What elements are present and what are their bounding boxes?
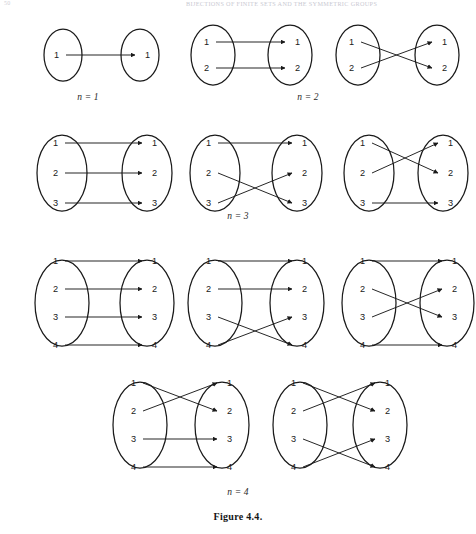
domain-element-label: 2 (349, 63, 354, 73)
codomain-element-label: 3 (448, 198, 453, 208)
domain-element-label: 4 (360, 340, 365, 350)
domain-element-label: 1 (204, 37, 209, 47)
codomain-ellipse (272, 135, 322, 211)
codomain-element-label: 3 (302, 198, 307, 208)
bijection-diagrams-svg: 1112121212123123123123123123123412341234… (0, 0, 476, 534)
codomain-element-label: 1 (227, 378, 232, 388)
codomain-element-label: 2 (152, 284, 157, 294)
codomain-ellipse (418, 135, 468, 211)
codomain-element-label: 2 (452, 284, 457, 294)
codomain-element-label: 2 (302, 284, 307, 294)
label-n-3: n = 3 (208, 211, 268, 221)
bijection-diagram: 123123 (190, 135, 322, 211)
domain-element-label: 2 (53, 168, 58, 178)
domain-element-label: 2 (360, 168, 365, 178)
bijection-diagram: 12341234 (342, 256, 474, 350)
label-n-1: n = 1 (58, 92, 118, 102)
figure-caption: Figure 4.4. (0, 511, 476, 522)
domain-element-label: 2 (291, 406, 296, 416)
domain-ellipse (190, 135, 240, 211)
codomain-element-label: 1 (385, 378, 390, 388)
codomain-element-label: 2 (442, 63, 447, 73)
domain-element-label: 1 (206, 256, 211, 266)
codomain-ellipse (120, 260, 174, 346)
codomain-element-label: 4 (385, 462, 390, 472)
codomain-element-label: 4 (302, 340, 307, 350)
codomain-element-label: 1 (295, 37, 300, 47)
figure-4-4: 1112121212123123123123123123123412341234… (0, 0, 476, 534)
domain-ellipse (188, 260, 242, 346)
domain-element-label: 2 (131, 406, 136, 416)
codomain-element-label: 1 (452, 256, 457, 266)
domain-element-label: 3 (360, 198, 365, 208)
domain-element-label: 3 (53, 198, 58, 208)
domain-ellipse (336, 25, 380, 85)
domain-element-label: 2 (206, 168, 211, 178)
codomain-element-label: 3 (385, 434, 390, 444)
bijection-diagram: 1212 (336, 25, 459, 85)
bijection-diagram: 1212 (191, 25, 312, 85)
domain-ellipse (35, 260, 89, 346)
domain-element-label: 2 (206, 284, 211, 294)
domain-element-label: 2 (360, 284, 365, 294)
bijection-diagram: 123123 (344, 135, 468, 211)
domain-element-label: 4 (131, 462, 136, 472)
domain-ellipse (342, 260, 396, 346)
codomain-element-label: 1 (152, 256, 157, 266)
codomain-element-label: 3 (302, 312, 307, 322)
bijection-diagram: 12341234 (273, 378, 407, 472)
domain-element-label: 1 (54, 50, 59, 60)
bijection-diagram: 11 (44, 29, 159, 81)
codomain-element-label: 4 (227, 462, 232, 472)
codomain-element-label: 1 (448, 138, 453, 148)
domain-element-label: 2 (53, 284, 58, 294)
codomain-element-label: 3 (152, 312, 157, 322)
domain-element-label: 1 (360, 256, 365, 266)
bijection-diagram: 12341234 (35, 256, 174, 350)
domain-ellipse (344, 135, 394, 211)
domain-element-label: 4 (53, 340, 58, 350)
codomain-ellipse (195, 382, 249, 468)
domain-element-label: 2 (204, 63, 209, 73)
domain-element-label: 3 (206, 312, 211, 322)
codomain-element-label: 3 (152, 198, 157, 208)
bijection-diagram: 12341234 (188, 256, 324, 350)
codomain-element-label: 1 (442, 37, 447, 47)
codomain-element-label: 2 (385, 406, 390, 416)
codomain-element-label: 1 (145, 50, 150, 60)
codomain-element-label: 2 (295, 63, 300, 73)
domain-ellipse (113, 382, 167, 468)
codomain-element-label: 4 (152, 340, 157, 350)
domain-element-label: 3 (291, 434, 296, 444)
codomain-ellipse (353, 382, 407, 468)
domain-ellipse (191, 25, 235, 85)
domain-element-label: 3 (131, 434, 136, 444)
codomain-element-label: 1 (302, 138, 307, 148)
domain-element-label: 4 (291, 462, 296, 472)
domain-element-label: 1 (131, 378, 136, 388)
codomain-ellipse (268, 25, 312, 85)
codomain-ellipse (420, 260, 474, 346)
domain-element-label: 1 (349, 37, 354, 47)
domain-element-label: 4 (206, 340, 211, 350)
domain-element-label: 1 (360, 138, 365, 148)
codomain-element-label: 1 (152, 138, 157, 148)
codomain-element-label: 3 (452, 312, 457, 322)
codomain-element-label: 2 (152, 168, 157, 178)
codomain-element-label: 3 (227, 434, 232, 444)
domain-element-label: 1 (206, 138, 211, 148)
domain-element-label: 1 (53, 138, 58, 148)
codomain-ellipse (415, 25, 459, 85)
domain-element-label: 3 (206, 198, 211, 208)
codomain-element-label: 2 (227, 406, 232, 416)
bijection-diagram: 123123 (37, 135, 172, 211)
codomain-ellipse (270, 260, 324, 346)
domain-element-label: 3 (53, 312, 58, 322)
label-n-4: n = 4 (208, 487, 268, 497)
codomain-element-label: 1 (302, 256, 307, 266)
codomain-element-label: 2 (448, 168, 453, 178)
domain-ellipse (273, 382, 327, 468)
label-n-2: n = 2 (278, 92, 338, 102)
domain-element-label: 1 (53, 256, 58, 266)
domain-element-label: 1 (291, 378, 296, 388)
